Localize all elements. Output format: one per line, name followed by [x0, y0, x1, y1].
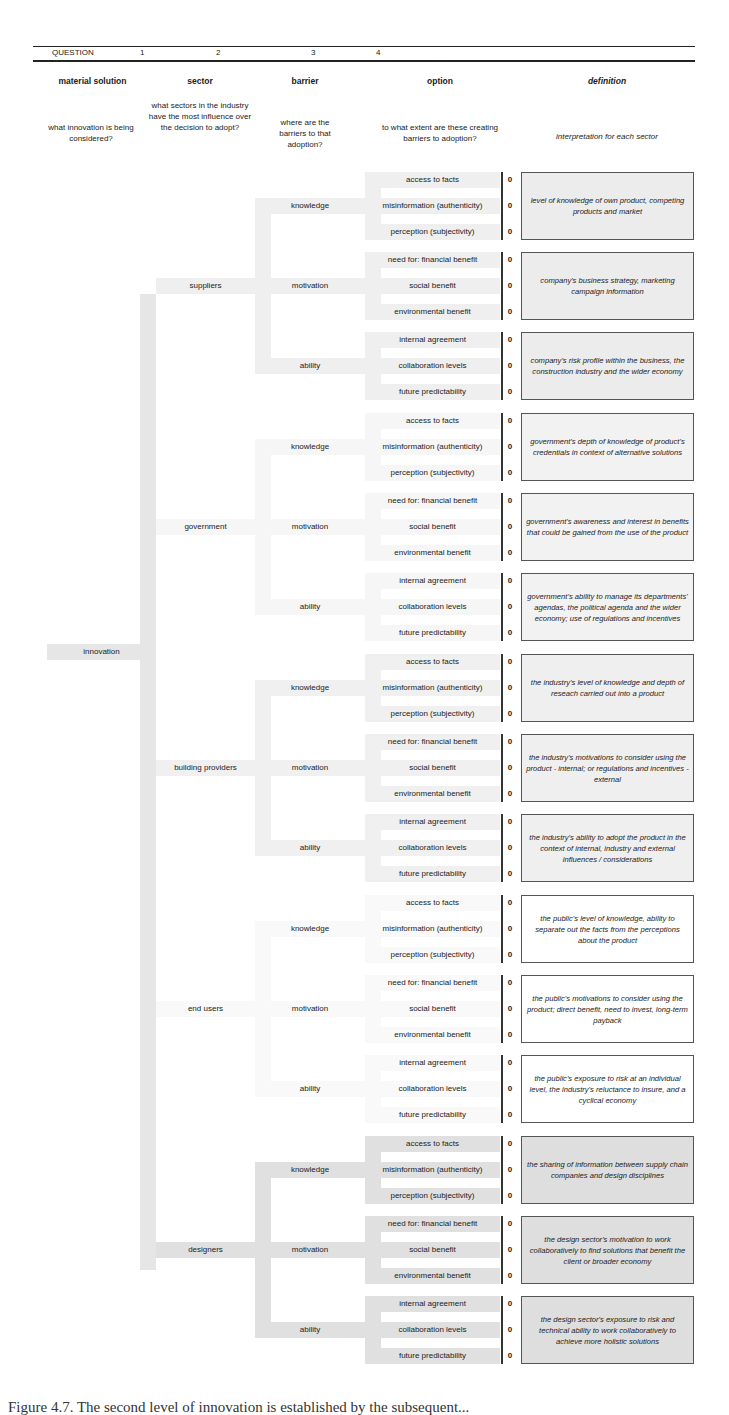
sector-node: end users — [156, 1001, 255, 1017]
option-node: social benefit — [365, 760, 500, 776]
option-node: perception (subjectivity) — [365, 224, 500, 240]
option-score: 0 — [505, 1137, 515, 1151]
column-title-option: option — [360, 76, 520, 86]
column-desc-sector: what sectors in the industry have the mo… — [148, 100, 252, 133]
option-node: perception (subjectivity) — [365, 465, 500, 481]
score-divider — [501, 975, 503, 1043]
option-node: collaboration levels — [365, 1322, 500, 1338]
option-node: future predictability — [365, 625, 500, 641]
option-node: environmental benefit — [365, 545, 500, 561]
top-rule — [33, 46, 695, 47]
option-node: access to facts — [365, 172, 500, 188]
definition-box: the industry's level of knowledge and de… — [521, 654, 694, 722]
score-divider — [501, 1296, 503, 1364]
sector-node: building providers — [156, 760, 255, 776]
definition-box: level of knowledge of own product, compe… — [521, 172, 694, 240]
option-node: misinformation (authenticity) — [365, 1162, 500, 1178]
option-score: 0 — [505, 1297, 515, 1311]
barrier-node-motivation: motivation — [255, 519, 365, 535]
barrier-node-ability: ability — [255, 840, 365, 856]
option-score: 0 — [505, 1163, 515, 1177]
barrier-node-motivation: motivation — [255, 760, 365, 776]
definition-box: government's depth of knowledge of produ… — [521, 413, 694, 481]
option-score: 0 — [505, 1082, 515, 1096]
column-title-material-solution: material solution — [30, 76, 155, 86]
option-node: future predictability — [365, 384, 500, 400]
sector-node: designers — [156, 1242, 255, 1258]
option-node: need for: financial benefit — [365, 975, 500, 991]
option-node: need for: financial benefit — [365, 493, 500, 509]
option-score: 0 — [505, 815, 515, 829]
barrier-node-ability: ability — [255, 1322, 365, 1338]
option-score: 0 — [505, 333, 515, 347]
question-number-2: 2 — [216, 48, 220, 57]
option-node: perception (subjectivity) — [365, 1188, 500, 1204]
option-score: 0 — [505, 1349, 515, 1363]
option-score: 0 — [505, 253, 515, 267]
option-score: 0 — [505, 1056, 515, 1070]
option-node: perception (subjectivity) — [365, 706, 500, 722]
option-score: 0 — [505, 681, 515, 695]
definition-box: company's business strategy, marketing c… — [521, 252, 694, 320]
option-node: access to facts — [365, 895, 500, 911]
root-vertical-connector — [140, 294, 156, 1270]
score-divider — [501, 493, 503, 561]
option-score: 0 — [505, 600, 515, 614]
option-score: 0 — [505, 520, 515, 534]
option-node: social benefit — [365, 278, 500, 294]
option-score: 0 — [505, 655, 515, 669]
column-desc-option: to what extent are these creating barrie… — [375, 122, 505, 144]
definition-box: the design sector's exposure to risk and… — [521, 1296, 694, 1364]
score-divider — [501, 1136, 503, 1204]
score-divider — [501, 573, 503, 641]
option-score: 0 — [505, 948, 515, 962]
score-divider — [501, 814, 503, 882]
column-title-sector: sector — [140, 76, 260, 86]
option-score: 0 — [505, 466, 515, 480]
option-node: environmental benefit — [365, 1027, 500, 1043]
option-node: environmental benefit — [365, 786, 500, 802]
option-score: 0 — [505, 787, 515, 801]
option-score: 0 — [505, 896, 515, 910]
option-score: 0 — [505, 1189, 515, 1203]
score-divider — [501, 734, 503, 802]
option-score: 0 — [505, 440, 515, 454]
barrier-node-knowledge: knowledge — [255, 439, 365, 455]
header-rule — [33, 60, 695, 62]
option-score: 0 — [505, 707, 515, 721]
option-score: 0 — [505, 1002, 515, 1016]
option-score: 0 — [505, 359, 515, 373]
score-divider — [501, 413, 503, 481]
sector-node: government — [156, 519, 255, 535]
option-node: need for: financial benefit — [365, 252, 500, 268]
barrier-node-knowledge: knowledge — [255, 921, 365, 937]
question-label: QUESTION — [52, 48, 94, 57]
definition-box: the public's level of knowledge, ability… — [521, 895, 694, 963]
option-node: internal agreement — [365, 1055, 500, 1071]
column-title-barrier: barrier — [250, 76, 360, 86]
option-node: social benefit — [365, 519, 500, 535]
option-score: 0 — [505, 761, 515, 775]
option-node: access to facts — [365, 413, 500, 429]
score-divider — [501, 654, 503, 722]
barrier-node-motivation: motivation — [255, 278, 365, 294]
option-node: social benefit — [365, 1242, 500, 1258]
option-score: 0 — [505, 305, 515, 319]
definition-box: the sharing of information between suppl… — [521, 1136, 694, 1204]
score-divider — [501, 1055, 503, 1123]
option-node: collaboration levels — [365, 599, 500, 615]
option-node: future predictability — [365, 866, 500, 882]
question-number-4: 4 — [376, 48, 380, 57]
option-node: access to facts — [365, 654, 500, 670]
option-score: 0 — [505, 841, 515, 855]
definition-box: government's awareness and interest in b… — [521, 493, 694, 561]
option-node: perception (subjectivity) — [365, 947, 500, 963]
option-score: 0 — [505, 574, 515, 588]
barrier-node-ability: ability — [255, 1081, 365, 1097]
option-node: collaboration levels — [365, 840, 500, 856]
column-desc-definition: interpretation for each sector — [522, 131, 692, 142]
barrier-node-knowledge: knowledge — [255, 1162, 365, 1178]
option-node: environmental benefit — [365, 304, 500, 320]
sector-node: suppliers — [156, 278, 255, 294]
option-score: 0 — [505, 1243, 515, 1257]
